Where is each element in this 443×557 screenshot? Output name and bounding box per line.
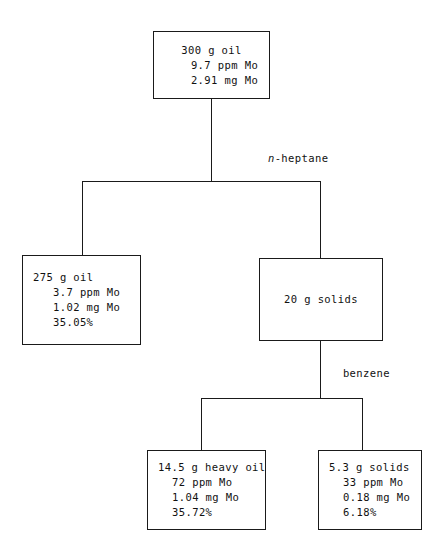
heptane-italic-n: n (268, 152, 275, 164)
node-heptane-solids-text: 20 g solids (260, 292, 382, 307)
feed-line-1: 300 g oil (154, 43, 269, 58)
connector-split-bar-2 (201, 398, 363, 399)
feed-line-3: 2.91 mg Mo (154, 73, 269, 88)
connector-feed-stem (211, 99, 212, 181)
connector-drop-left-2 (201, 398, 202, 450)
heavyoil-line-2: 72 ppm Mo (158, 475, 265, 490)
heavyoil-line-1: 14.5 g heavy oil (158, 460, 265, 475)
node-deasphalted-oil: 275 g oil 3.7 ppm Mo 1.02 mg Mo 35.05% (22, 255, 141, 345)
node-benzene-heavy-oil: 14.5 g heavy oil 72 ppm Mo 1.04 mg Mo 35… (147, 450, 266, 530)
heptane-rest: -heptane (275, 152, 329, 164)
raffinate-line-2: 3.7 ppm Mo (33, 285, 140, 300)
feed-line-2: 9.7 ppm Mo (154, 58, 269, 73)
heavyoil-line-3: 1.04 mg Mo (158, 490, 265, 505)
connector-drop-left-1 (82, 181, 83, 255)
solids53-line-1: 5.3 g solids (329, 460, 421, 475)
node-heptane-solids: 20 g solids (259, 258, 383, 341)
raffinate-line-3: 1.02 mg Mo (33, 300, 140, 315)
solids53-line-3: 0.18 mg Mo (329, 490, 421, 505)
edge-label-benzene: benzene (316, 352, 390, 394)
raffinate-line-4: 35.05% (33, 315, 140, 330)
node-benzene-insoluble-solids-text: 5.3 g solids 33 ppm Mo 0.18 mg Mo 6.18% (319, 460, 421, 520)
edge-label-heptane: n-heptane (241, 137, 328, 179)
raffinate-line-1: 275 g oil (33, 270, 140, 285)
connector-drop-right-1 (320, 181, 321, 258)
node-deasphalted-oil-text: 275 g oil 3.7 ppm Mo 1.02 mg Mo 35.05% (23, 270, 140, 330)
benzene-text: benzene (343, 367, 390, 379)
node-feed-oil-text: 300 g oil 9.7 ppm Mo 2.91 mg Mo (154, 43, 269, 88)
solids20-line-1: 20 g solids (260, 292, 382, 307)
node-benzene-heavy-oil-text: 14.5 g heavy oil 72 ppm Mo 1.04 mg Mo 35… (148, 460, 265, 520)
flow-diagram: 300 g oil 9.7 ppm Mo 2.91 mg Mo n-heptan… (0, 0, 443, 557)
node-feed-oil: 300 g oil 9.7 ppm Mo 2.91 mg Mo (153, 31, 270, 99)
node-benzene-insoluble-solids: 5.3 g solids 33 ppm Mo 0.18 mg Mo 6.18% (318, 450, 422, 530)
connector-drop-right-2 (362, 398, 363, 450)
solids53-line-2: 33 ppm Mo (329, 475, 421, 490)
connector-split-bar-1 (82, 181, 321, 182)
heavyoil-line-4: 35.72% (158, 505, 265, 520)
solids53-line-4: 6.18% (329, 505, 421, 520)
